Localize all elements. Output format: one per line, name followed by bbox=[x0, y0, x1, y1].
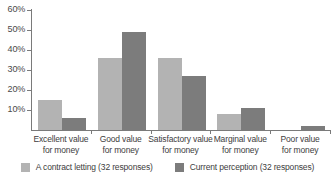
bar bbox=[241, 108, 265, 130]
bar bbox=[217, 114, 241, 130]
bar bbox=[301, 126, 325, 130]
legend-label: A contract letting (32 responses) bbox=[36, 162, 153, 172]
bar bbox=[158, 58, 182, 130]
bar bbox=[122, 32, 146, 130]
category-label: Poor valuefor money bbox=[264, 134, 335, 155]
x-axis-line bbox=[31, 130, 331, 131]
legend-item[interactable]: A contract letting (32 responses) bbox=[21, 162, 153, 172]
bar-group bbox=[210, 10, 270, 130]
bar bbox=[38, 100, 62, 130]
legend-label: Current perception (32 responses) bbox=[190, 162, 315, 172]
y-tick-label: 60% bbox=[8, 4, 25, 14]
legend-item[interactable]: Current perception (32 responses) bbox=[175, 162, 315, 172]
legend-swatch bbox=[21, 163, 30, 172]
bar-chart: 10%20%30%40%50%60% Excellent valuefor mo… bbox=[0, 0, 335, 179]
y-tick-label: 30% bbox=[8, 64, 25, 74]
y-tick-label: 40% bbox=[8, 44, 25, 54]
y-tick-label: 10% bbox=[8, 104, 25, 114]
y-tick-label: 20% bbox=[8, 84, 25, 94]
bar bbox=[62, 118, 86, 130]
y-tick-label: 50% bbox=[8, 24, 25, 34]
bar-group bbox=[31, 10, 91, 130]
legend-swatch bbox=[175, 163, 184, 172]
bar-group bbox=[270, 10, 330, 130]
bar-group bbox=[151, 10, 211, 130]
chart-legend: A contract letting (32 responses)Current… bbox=[0, 162, 335, 172]
bar bbox=[182, 76, 206, 130]
bar bbox=[98, 58, 122, 130]
bar-group bbox=[91, 10, 151, 130]
plot-area: 10%20%30%40%50%60% bbox=[31, 10, 330, 130]
